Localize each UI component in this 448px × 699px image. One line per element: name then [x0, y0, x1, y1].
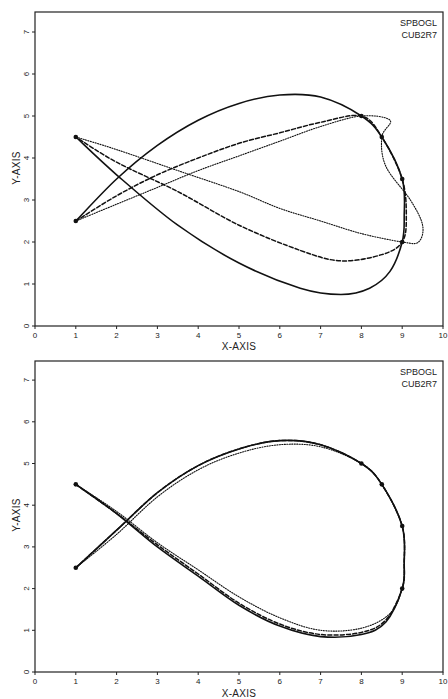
- data-nodes: [74, 461, 405, 591]
- curve-dotted: [76, 116, 423, 244]
- curve-solid: [76, 94, 405, 294]
- y-tick-label: 4: [22, 502, 31, 507]
- y-tick-label: 5: [22, 461, 31, 466]
- y-axis-label: Y-AXIS: [11, 498, 22, 532]
- x-tick-label: 8: [359, 677, 364, 686]
- data-node: [400, 586, 405, 591]
- x-tick-label: 2: [114, 677, 119, 686]
- y-tick-label: 1: [22, 628, 31, 633]
- x-tick-label: 2: [114, 331, 119, 340]
- plot-bottom: 01234567891001234567 SPBOGL CUB2R7 X-AXI…: [11, 361, 448, 699]
- x-tick-label: 5: [237, 331, 242, 340]
- data-node: [380, 482, 385, 487]
- data-node: [74, 565, 79, 570]
- y-tick-label: 6: [22, 419, 31, 424]
- x-tick-label: 4: [196, 331, 201, 340]
- x-tick-label: 4: [196, 677, 201, 686]
- data-node: [74, 135, 79, 140]
- plot-top: 01234567891001234567 SPBOGL CUB2R7 X-AXI…: [11, 12, 448, 352]
- x-tick-label: 3: [155, 677, 160, 686]
- data-node: [74, 219, 79, 224]
- legend-label-1: SPBOGL: [400, 367, 437, 377]
- x-tick-label: 9: [400, 677, 405, 686]
- y-tick-label: 0: [22, 669, 31, 674]
- legend-label-1: SPBOGL: [400, 18, 437, 28]
- x-tick-label: 6: [278, 677, 283, 686]
- legend-label-2: CUB2R7: [401, 30, 437, 40]
- data-node: [359, 461, 364, 466]
- curve-dotted: [76, 444, 405, 631]
- curves: [76, 440, 405, 637]
- x-tick-label: 7: [318, 677, 323, 686]
- y-tick-label: 3: [22, 197, 31, 202]
- y-tick-label: 3: [22, 544, 31, 549]
- x-tick-label: 5: [237, 677, 242, 686]
- x-tick-label: 1: [74, 331, 79, 340]
- data-node: [359, 114, 364, 119]
- x-tick-label: 10: [439, 677, 448, 686]
- y-tick-label: 7: [22, 29, 31, 34]
- figure: 01234567891001234567 SPBOGL CUB2R7 X-AXI…: [0, 0, 448, 699]
- axis-ticks: 01234567891001234567: [22, 377, 448, 686]
- y-tick-label: 0: [22, 323, 31, 328]
- y-tick-label: 7: [22, 377, 31, 382]
- plot-frame: [35, 12, 443, 326]
- axis-ticks: 01234567891001234567: [22, 29, 448, 340]
- legend-label-2: CUB2R7: [401, 379, 437, 389]
- x-tick-label: 0: [33, 677, 38, 686]
- y-tick-label: 2: [22, 239, 31, 244]
- x-tick-label: 6: [278, 331, 283, 340]
- y-tick-label: 5: [22, 113, 31, 118]
- y-tick-label: 1: [22, 281, 31, 286]
- x-axis-label: X-AXIS: [222, 688, 257, 699]
- x-tick-label: 0: [33, 331, 38, 340]
- data-node: [74, 482, 79, 487]
- x-tick-label: 10: [439, 331, 448, 340]
- curve-dashed: [76, 115, 407, 261]
- data-node: [380, 135, 385, 140]
- x-tick-label: 8: [359, 331, 364, 340]
- curves: [76, 94, 423, 294]
- y-tick-label: 4: [22, 155, 31, 160]
- x-axis-label: X-AXIS: [222, 341, 257, 352]
- x-tick-label: 7: [318, 331, 323, 340]
- data-node: [400, 177, 405, 182]
- y-axis-label: Y-AXIS: [11, 151, 22, 185]
- x-tick-label: 1: [74, 677, 79, 686]
- x-tick-label: 9: [400, 331, 405, 340]
- x-tick-label: 3: [155, 331, 160, 340]
- data-node: [400, 240, 405, 245]
- y-tick-label: 6: [22, 71, 31, 76]
- curve-solid: [76, 440, 405, 637]
- y-tick-label: 2: [22, 586, 31, 591]
- data-node: [400, 524, 405, 529]
